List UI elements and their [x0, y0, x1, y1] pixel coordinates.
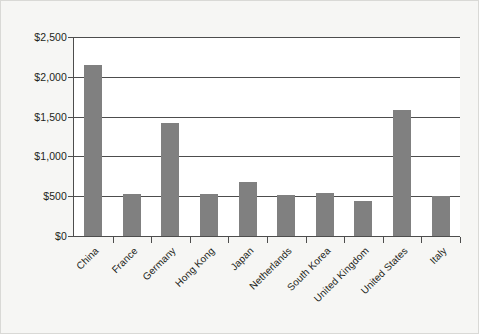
x-label-slot: France — [113, 245, 152, 325]
bar-slot — [151, 37, 190, 236]
bar[interactable] — [277, 195, 295, 236]
x-axis-tick-mark — [151, 237, 152, 243]
x-axis-tick-mark — [460, 237, 461, 243]
bar[interactable] — [354, 201, 372, 236]
x-axis-tick-mark — [344, 237, 345, 243]
bar-slot — [113, 37, 152, 236]
x-axis-tick-label: France — [109, 245, 139, 275]
x-axis-tick-mark — [228, 237, 229, 243]
bar-slot — [344, 37, 383, 236]
x-axis-tick-mark — [267, 237, 268, 243]
bar-slot — [421, 37, 460, 236]
x-axis-tick-mark — [113, 237, 114, 243]
x-label-slot: United States — [383, 245, 422, 325]
y-axis-tick-labels: $0$500$1,000$1,500$2,000$2,500 — [1, 1, 67, 334]
bar-slot — [74, 37, 113, 236]
x-axis-tick-label: Italy — [427, 245, 448, 266]
x-axis-tick-label: Japan — [228, 245, 255, 272]
bar[interactable] — [239, 182, 257, 236]
chart-frame: $0$500$1,000$1,500$2,000$2,500 ChinaFran… — [0, 0, 479, 334]
bar[interactable] — [84, 65, 102, 236]
bar[interactable] — [123, 194, 141, 236]
x-axis-tick-mark — [383, 237, 384, 243]
y-axis-tick-label: $500 — [43, 190, 67, 202]
x-axis-tick-mark — [421, 237, 422, 243]
y-axis-tick-label: $2,500 — [34, 31, 67, 43]
bar[interactable] — [432, 196, 450, 236]
bar-slot — [306, 37, 345, 236]
bar-slot — [228, 37, 267, 236]
x-label-slot: Hong Kong — [190, 245, 229, 325]
bar-slot — [267, 37, 306, 236]
bar-series — [74, 37, 460, 236]
y-axis-tick-label: $1,000 — [34, 150, 67, 162]
y-axis-tick-label: $1,500 — [34, 111, 67, 123]
bar[interactable] — [316, 193, 334, 236]
bar[interactable] — [161, 123, 179, 236]
x-label-slot: Italy — [421, 245, 460, 325]
x-axis-tick-mark — [190, 237, 191, 243]
bar-slot — [383, 37, 422, 236]
x-axis-tick-label: China — [74, 245, 101, 272]
x-axis-tick-mark — [306, 237, 307, 243]
x-axis-tick-labels: ChinaFranceGermanyHong KongJapanNetherla… — [74, 245, 460, 325]
bar[interactable] — [200, 194, 218, 236]
x-label-slot: China — [74, 245, 113, 325]
bar-slot — [190, 37, 229, 236]
bar[interactable] — [393, 110, 411, 236]
y-axis-tick-label: $0 — [55, 230, 67, 242]
y-axis-tick-label: $2,000 — [34, 71, 67, 83]
